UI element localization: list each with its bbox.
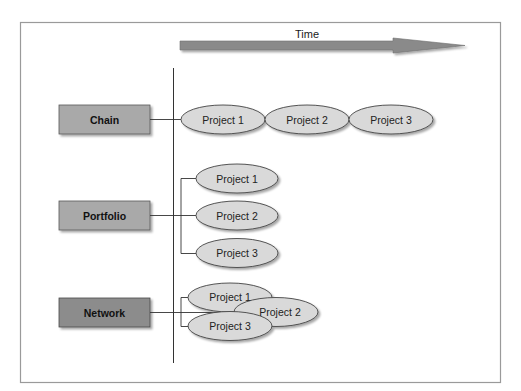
portfolio-row: Portfolio Project 1 Project 2 Project 3	[59, 164, 278, 268]
chain-project-2-label: Project 2	[286, 114, 328, 126]
chain-project-3-label: Project 3	[370, 114, 412, 126]
network-project-3-label: Project 3	[209, 320, 251, 332]
portfolio-project-2-label: Project 2	[216, 210, 258, 222]
chain-label: Chain	[90, 114, 119, 126]
time-arrow-icon	[180, 38, 465, 53]
portfolio-project-1-label: Project 1	[216, 173, 258, 185]
chain-row: Chain Project 1 Project 2 Project 3	[59, 105, 433, 134]
network-row: Network Project 1 Project 2 Project 3	[59, 283, 318, 341]
network-project-1-label: Project 1	[209, 291, 251, 303]
diagram-canvas: Time Chain Project 1 Project 2 Project 3…	[0, 0, 521, 391]
time-label: Time	[295, 28, 319, 40]
portfolio-label: Portfolio	[83, 210, 126, 222]
time-arrow	[180, 38, 465, 53]
portfolio-project-3-label: Project 3	[216, 247, 258, 259]
chain-project-1-label: Project 1	[202, 114, 244, 126]
network-label: Network	[84, 307, 126, 319]
network-project-2-label: Project 2	[259, 306, 301, 318]
